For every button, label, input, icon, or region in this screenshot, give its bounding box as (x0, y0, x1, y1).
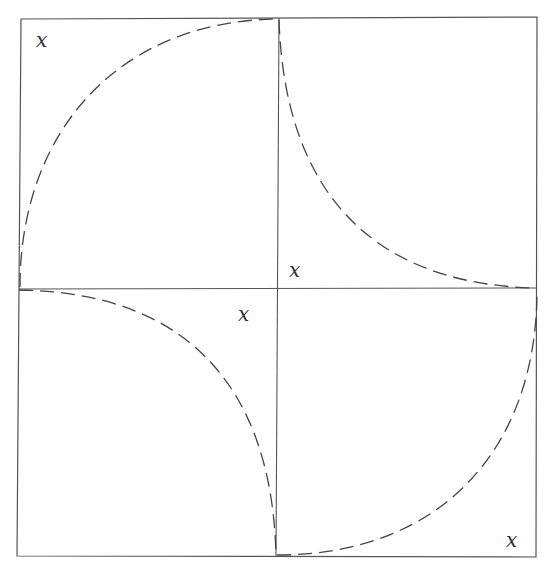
mark-x-bottom-right: x (506, 530, 517, 550)
arc-top-left (20, 19, 279, 287)
arc-bottom-left (19, 290, 276, 556)
vertical-divider (276, 18, 279, 557)
horizontal-divider (19, 288, 537, 289)
arc-bottom-right (277, 290, 537, 555)
mark-x-center-upper: x (289, 260, 300, 280)
mark-x-top-left: x (36, 30, 47, 50)
diagram-canvas (0, 0, 554, 573)
mark-x-center-lower: x (238, 304, 249, 324)
arc-top-right (279, 20, 537, 288)
